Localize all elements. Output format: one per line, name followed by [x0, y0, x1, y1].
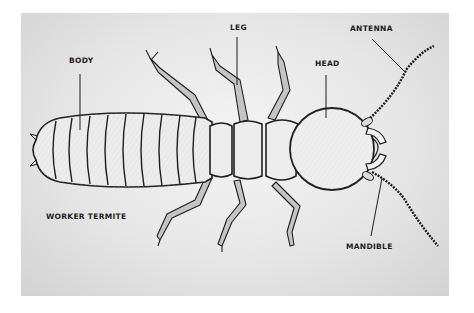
label-mandible: MANDIBLE	[346, 242, 393, 251]
label-leg: LEG	[230, 23, 247, 32]
abdomen	[30, 113, 212, 187]
figure-title: WORKER TERMITE	[46, 212, 126, 221]
antennae	[370, 46, 438, 246]
label-antenna: ANTENNA	[350, 24, 393, 33]
thorax	[210, 120, 298, 180]
head	[290, 108, 386, 190]
label-body: BODY	[69, 56, 93, 65]
label-head: HEAD	[315, 59, 340, 68]
termite-illustration	[0, 0, 474, 313]
